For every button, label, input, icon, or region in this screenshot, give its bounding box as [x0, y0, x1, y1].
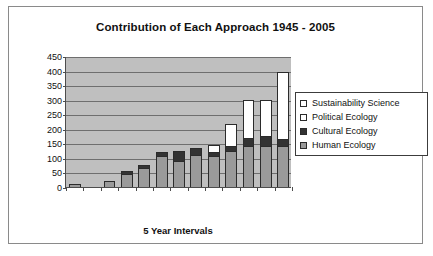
bar-stack[interactable]: [156, 152, 168, 187]
y-tick-mark: [63, 173, 66, 174]
bar-stack[interactable]: [173, 151, 185, 187]
bar-segment[interactable]: [173, 161, 185, 187]
gridline: [66, 115, 291, 116]
y-tick-label: 400: [47, 67, 62, 76]
bar-segment[interactable]: [260, 136, 272, 146]
x-tick-mark: [292, 187, 293, 191]
bar-stack[interactable]: [104, 181, 116, 187]
bar-segment[interactable]: [243, 100, 255, 138]
legend-label: Sustainability Science: [312, 99, 400, 108]
bar-segment[interactable]: [173, 151, 185, 161]
bar-stack[interactable]: [190, 148, 202, 187]
gridline: [66, 86, 291, 87]
bar-stack[interactable]: [225, 124, 237, 187]
bar-segment[interactable]: [156, 156, 168, 187]
chart-frame: Contribution of Each Approach 1945 - 200…: [8, 6, 423, 244]
bar-segment[interactable]: [104, 181, 116, 187]
bar-stack[interactable]: [243, 100, 255, 187]
bar-stack[interactable]: [277, 72, 289, 187]
x-tick-mark: [240, 187, 241, 191]
x-tick-mark: [275, 187, 276, 191]
bar-stack[interactable]: [138, 165, 150, 187]
y-tick-mark: [63, 72, 66, 73]
bar-segment[interactable]: [277, 139, 289, 146]
gridline: [66, 57, 291, 58]
y-tick-label: 350: [47, 82, 62, 91]
x-tick-mark: [188, 187, 189, 191]
legend-swatch-icon: [300, 114, 307, 121]
x-tick-mark: [205, 187, 206, 191]
bar-stack[interactable]: [121, 171, 133, 187]
x-tick-mark: [66, 187, 67, 191]
bar-segment[interactable]: [190, 148, 202, 155]
y-tick-mark: [63, 159, 66, 160]
x-tick-mark: [83, 187, 84, 191]
legend-label: Cultural Ecology: [312, 127, 378, 136]
bar-segment[interactable]: [208, 145, 220, 152]
y-tick-label: 250: [47, 111, 62, 120]
gridline: [66, 144, 291, 145]
x-tick-mark: [257, 187, 258, 191]
bar-segment[interactable]: [69, 184, 81, 187]
legend-swatch-icon: [300, 128, 307, 135]
legend-swatch-icon: [300, 142, 307, 149]
x-tick-mark: [153, 187, 154, 191]
legend-item[interactable]: Human Ecology: [300, 138, 423, 152]
x-axis-title: 5 Year Intervals: [65, 225, 291, 236]
bar-segment[interactable]: [277, 72, 289, 139]
legend-swatch-icon: [300, 100, 307, 107]
bar-stack[interactable]: [260, 100, 272, 187]
y-tick-mark: [63, 130, 66, 131]
y-tick-mark: [63, 86, 66, 87]
y-tick-label: 100: [47, 154, 62, 163]
y-tick-mark: [63, 144, 66, 145]
bar-segment[interactable]: [243, 146, 255, 187]
legend-label: Human Ecology: [312, 141, 376, 150]
chart-legend: Sustainability SciencePolitical EcologyC…: [295, 92, 428, 156]
x-tick-mark: [170, 187, 171, 191]
legend-label: Political Ecology: [312, 113, 378, 122]
legend-item[interactable]: Sustainability Science: [300, 96, 423, 110]
y-tick-mark: [63, 115, 66, 116]
bar-segment[interactable]: [121, 174, 133, 187]
plot-wrapper: 050100150200250300350400450: [65, 57, 291, 188]
y-tick-mark: [63, 57, 66, 58]
bar-segment[interactable]: [190, 155, 202, 187]
y-tick-mark: [63, 101, 66, 102]
x-tick-mark: [118, 187, 119, 191]
bar-segment[interactable]: [277, 146, 289, 187]
chart-title: Contribution of Each Approach 1945 - 200…: [9, 21, 422, 33]
x-tick-mark: [101, 187, 102, 191]
gridline: [66, 101, 291, 102]
bar-segment[interactable]: [225, 151, 237, 187]
y-tick-label: 200: [47, 125, 62, 134]
y-tick-label: 450: [47, 53, 62, 62]
x-tick-mark: [136, 187, 137, 191]
bar-segment[interactable]: [243, 138, 255, 147]
legend-item[interactable]: Political Ecology: [300, 110, 423, 124]
bar-segment[interactable]: [225, 124, 237, 146]
y-tick-label: 0: [57, 184, 62, 193]
x-tick-mark: [222, 187, 223, 191]
bar-stack[interactable]: [208, 145, 220, 187]
bar-stack[interactable]: [69, 184, 81, 187]
gridline: [66, 72, 291, 73]
y-tick-label: 150: [47, 140, 62, 149]
gridline: [66, 130, 291, 131]
bar-segment[interactable]: [260, 146, 272, 187]
bar-segment[interactable]: [260, 100, 272, 136]
bar-segment[interactable]: [208, 156, 220, 187]
bar-segment[interactable]: [138, 168, 150, 187]
y-tick-label: 300: [47, 96, 62, 105]
plot-area: 050100150200250300350400450: [65, 57, 291, 188]
y-tick-label: 50: [52, 169, 62, 178]
legend-item[interactable]: Cultural Ecology: [300, 124, 423, 138]
